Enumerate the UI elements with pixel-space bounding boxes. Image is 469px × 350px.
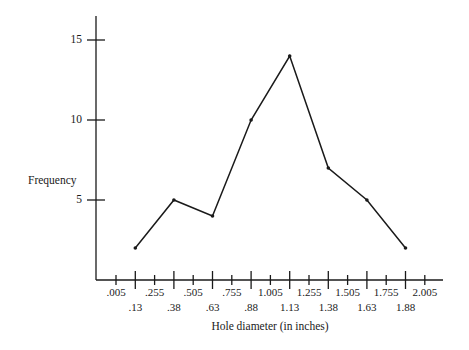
data-point	[172, 198, 176, 202]
x-midpoint-label: 1.13	[270, 301, 310, 313]
x-axis-label: Hole diameter (in inches)	[170, 320, 370, 332]
x-boundary-label: 1.505	[328, 286, 368, 298]
x-boundary-label: .005	[96, 286, 136, 298]
y-tick-label: 5	[52, 193, 82, 205]
x-boundary-label: .755	[212, 286, 252, 298]
data-point	[327, 166, 331, 170]
x-boundary-label: .505	[173, 286, 213, 298]
data-point	[249, 118, 253, 122]
data-point	[211, 214, 215, 218]
y-axis-label: Frequency	[28, 174, 77, 186]
x-midpoint-label: .63	[193, 301, 233, 313]
data-point	[404, 246, 408, 250]
x-boundary-label: 1.755	[366, 286, 406, 298]
x-boundary-label: .255	[135, 286, 175, 298]
x-midpoint-label: .38	[154, 301, 194, 313]
x-boundary-label: 2.005	[405, 286, 445, 298]
x-midpoint-label: 1.88	[386, 301, 426, 313]
x-midpoint-label: .88	[231, 301, 271, 313]
x-midpoint-label: .13	[115, 301, 155, 313]
y-tick-label: 10	[52, 113, 82, 125]
x-boundary-label: 1.005	[250, 286, 290, 298]
data-point	[134, 246, 138, 250]
y-tick-label: 15	[52, 33, 82, 45]
x-boundary-label: 1.255	[289, 286, 329, 298]
frequency-polygon-line	[135, 56, 405, 248]
data-point	[288, 54, 292, 58]
data-point	[365, 198, 369, 202]
x-midpoint-label: 1.63	[347, 301, 387, 313]
x-midpoint-label: 1.38	[308, 301, 348, 313]
